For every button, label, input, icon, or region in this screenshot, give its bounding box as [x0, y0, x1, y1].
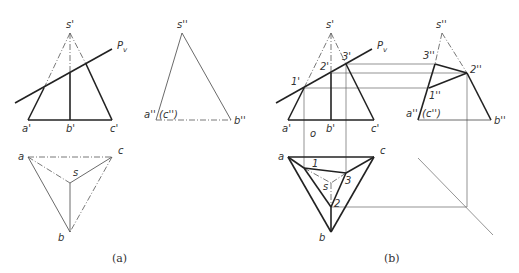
drawing-canvas: s' a' b' c' Pv s'' a'' (c'') b'' a c s [0, 0, 519, 273]
label-s-double-prime: s'' [177, 19, 188, 30]
label-1-prime: 1' [291, 76, 300, 87]
figure-a-top-view: a c s b [18, 145, 124, 243]
label-c-double-prime: (c'') [159, 109, 178, 120]
label-1: 1 [312, 158, 318, 169]
figure-b-front-view: s' a' b' c' 1' 2' 3' Pv o [276, 19, 388, 139]
label-b: b [58, 232, 64, 243]
label-plane-pv: Pv [377, 40, 388, 54]
label-a: a [278, 151, 284, 162]
label-b-prime: b' [66, 123, 75, 134]
label-a-prime: a' [22, 123, 31, 134]
label-b-double-prime: b'' [494, 115, 506, 126]
label-3-double-prime: 3'' [423, 50, 435, 61]
figure-a: s' a' b' c' Pv s'' a'' (c'') b'' a c s [15, 19, 246, 265]
figure-b-top-view: a c 1 s 3 2 b [278, 145, 386, 243]
label-s-prime: s' [326, 19, 334, 30]
label-c: c [380, 145, 386, 156]
caption-b: (b) [384, 252, 400, 265]
label-s: s [323, 181, 328, 192]
label-a: a [18, 151, 24, 162]
label-s-prime: s' [66, 19, 74, 30]
label-2: 2 [334, 198, 340, 209]
label-s-double-prime: s'' [436, 19, 447, 30]
label-c-prime: c' [110, 123, 118, 134]
marker-o: o [310, 128, 316, 139]
label-3: 3 [345, 175, 351, 186]
label-b-double-prime: b'' [234, 115, 246, 126]
label-c: c [118, 145, 124, 156]
figure-a-side-view: s'' a'' (c'') b'' [144, 19, 246, 126]
label-a-double-prime: a'' [144, 109, 156, 120]
figure-b: s' a' b' c' 1' 2' 3' Pv o s'' 3'' 2'' 1'… [276, 19, 506, 265]
label-b-prime: b' [326, 123, 335, 134]
label-a-prime: a' [282, 123, 291, 134]
label-s: s [73, 167, 78, 178]
caption-a: (a) [112, 252, 127, 265]
label-3-prime: 3' [342, 51, 351, 62]
figure-b-side-view: s'' 3'' 2'' 1'' a'' (c'') b'' [406, 19, 506, 126]
figure-b-projection-lines [304, 64, 493, 235]
label-1-double-prime: 1'' [429, 90, 441, 101]
label-a-double-prime: a'' [406, 108, 418, 119]
projection-drawing: s' a' b' c' Pv s'' a'' (c'') b'' a c s [0, 0, 519, 273]
label-c-prime: c' [371, 123, 379, 134]
label-c-double-prime: (c'') [422, 108, 441, 119]
label-2-double-prime: 2'' [470, 64, 482, 75]
label-plane-pv: Pv [117, 40, 128, 54]
label-b: b [319, 232, 325, 243]
label-2-prime: 2' [320, 61, 329, 72]
figure-a-front-view: s' a' b' c' Pv [15, 19, 128, 134]
